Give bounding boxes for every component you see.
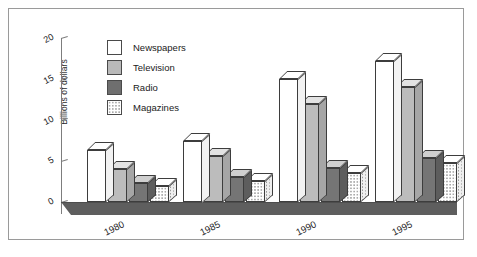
plot-area: 1980198519901995 bbox=[61, 38, 457, 214]
bar-newspapers-1980 bbox=[87, 150, 106, 202]
bar-side-face bbox=[319, 97, 327, 202]
x-tick-label-1995: 1995 bbox=[390, 218, 414, 237]
chart-floor bbox=[61, 202, 457, 215]
bar-newspapers-1990 bbox=[279, 79, 298, 202]
bar-newspapers-1995 bbox=[375, 61, 394, 202]
x-tick-label-1985: 1985 bbox=[198, 218, 222, 237]
chart-frame: Billions of dollars 05101520 NewspapersT… bbox=[8, 8, 464, 240]
y-tick-label: 15 bbox=[31, 73, 55, 92]
y-tick-label: 5 bbox=[31, 155, 55, 174]
bar-front-face bbox=[183, 141, 202, 203]
y-tick-label: 10 bbox=[31, 114, 55, 133]
bar-side-face bbox=[415, 80, 423, 202]
bar-front-face bbox=[87, 150, 106, 202]
bar-front-face bbox=[279, 79, 298, 202]
bar-side-face bbox=[436, 151, 444, 202]
bar-side-face bbox=[457, 157, 465, 202]
y-tick-label: 20 bbox=[31, 32, 55, 51]
x-tick-label-1980: 1980 bbox=[102, 218, 126, 237]
bar-side-face bbox=[223, 149, 231, 202]
y-tick-label: 0 bbox=[31, 196, 55, 215]
bar-front-face bbox=[375, 61, 394, 202]
x-tick-label-1990: 1990 bbox=[294, 218, 318, 237]
bar-side-face bbox=[298, 72, 306, 202]
bar-newspapers-1985 bbox=[183, 141, 202, 203]
bar-side-face bbox=[394, 54, 402, 202]
bar-side-face bbox=[202, 134, 210, 202]
bar-side-face bbox=[106, 143, 114, 202]
chart-baseline bbox=[61, 202, 457, 203]
